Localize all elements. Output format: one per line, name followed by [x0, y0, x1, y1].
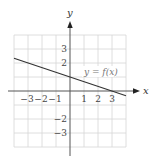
y-tick-label: 2 — [61, 58, 67, 68]
function-graph: x y −3 −2 −1 1 2 3 3 2 −2 −3 y = f(x) — [0, 0, 152, 159]
x-tick-labels: −3 −2 −1 1 2 3 — [20, 94, 115, 104]
y-axis-arrow-icon — [67, 21, 72, 28]
x-tick-label: 3 — [109, 94, 115, 104]
y-tick-label: −3 — [54, 128, 68, 138]
x-tick-label: 2 — [95, 94, 101, 104]
y-tick-label: 3 — [61, 44, 67, 54]
x-tick-label: 1 — [81, 94, 87, 104]
x-tick-label: −2 — [34, 94, 47, 104]
x-axis-label: x — [143, 85, 149, 96]
y-tick-label: −2 — [54, 114, 67, 124]
x-axis-arrow-icon — [133, 88, 140, 93]
x-tick-label: −3 — [20, 94, 34, 104]
y-axis-label: y — [66, 7, 73, 18]
function-label: y = f(x) — [83, 67, 118, 77]
x-tick-label: −1 — [48, 94, 61, 104]
